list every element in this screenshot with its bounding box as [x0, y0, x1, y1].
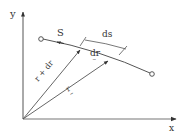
- curve-label: S: [57, 27, 64, 38]
- ds-label: ds: [102, 29, 113, 39]
- vectors: r + dr r ~ dr ~: [23, 48, 108, 119]
- ds-tick-start: [80, 37, 86, 46]
- vector-r-plus-dr-label: r + dr: [33, 59, 56, 84]
- y-axis-label: y: [9, 8, 16, 19]
- vector-r-underline: ~: [68, 90, 75, 97]
- vector-dr-underline: ~: [92, 56, 96, 62]
- x-axis-label: x: [169, 123, 174, 133]
- curve-start-marker-icon: [39, 37, 44, 42]
- path-vector-diagram: y x S r + dr r ~ dr ~ ds: [0, 0, 184, 139]
- curve-end-marker-icon: [150, 72, 155, 77]
- axes: y x: [9, 8, 176, 133]
- vector-r-plus-dr: [23, 50, 80, 119]
- ds-dimension: ds: [80, 29, 127, 55]
